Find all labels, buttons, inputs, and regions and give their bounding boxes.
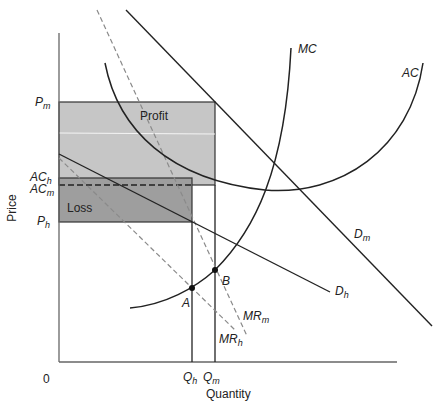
dm-label: Dm <box>354 227 371 243</box>
economics-diagram: Profit Loss Pm ACh ACm Ph Price 0 Qh Qm … <box>0 0 440 408</box>
dh-label: Dh <box>335 284 349 300</box>
point-b-label: B <box>222 274 230 288</box>
y-axis-title: Price <box>5 194 19 222</box>
mc-label: MC <box>298 42 317 56</box>
ac-label: AC <box>401 66 419 80</box>
qm-label: Qm <box>203 370 220 386</box>
point-a-label: A <box>181 296 190 310</box>
origin-label: 0 <box>43 372 50 386</box>
point-b-marker <box>212 267 218 273</box>
pm-label: Pm <box>35 95 51 111</box>
point-a-marker <box>189 285 195 291</box>
mrh-label: MRh <box>219 332 243 348</box>
ph-label: Ph <box>37 214 50 230</box>
profit-region <box>59 102 215 185</box>
x-axis-title: Quantity <box>206 387 251 401</box>
profit-label: Profit <box>140 109 169 123</box>
loss-label: Loss <box>67 201 92 215</box>
qh-label: Qh <box>183 370 197 386</box>
mrm-label: MRm <box>243 309 270 325</box>
